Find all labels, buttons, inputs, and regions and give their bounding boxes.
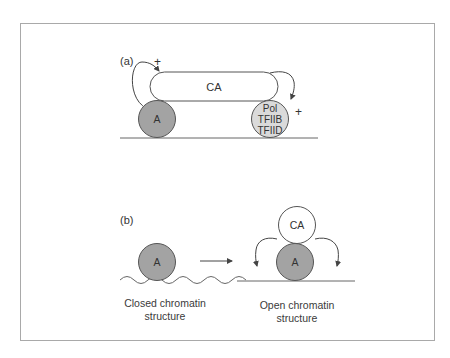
panel-a [120, 62, 318, 138]
caption-closed-line1: Closed chromatin [124, 297, 206, 310]
plus-sign-left: + [154, 56, 161, 68]
panel-b-label: (b) [120, 215, 133, 226]
activator-label-open: A [291, 257, 298, 268]
panel-a-label: (a) [120, 56, 133, 67]
complex-label-pol: Pol [263, 104, 277, 114]
caption-open-line2: structure [277, 312, 318, 325]
arrow-right-chromatin [315, 238, 338, 266]
activator-label-closed: A [153, 257, 160, 268]
ca-label-b: CA [290, 220, 305, 231]
panel-b [120, 207, 355, 284]
chromatin-wavy-line [120, 277, 246, 284]
ca-label-a: CA [206, 82, 221, 93]
complex-label-tfiid: TFIID [258, 126, 283, 136]
plus-sign-right: + [295, 106, 302, 118]
diagram-canvas [0, 0, 450, 358]
activator-label-a: A [153, 114, 160, 125]
caption-open-line1: Open chromatin [260, 299, 335, 312]
complex-label-tfiib: TFIIB [258, 115, 282, 125]
arrow-left-chromatin [256, 238, 277, 266]
caption-closed-line2: structure [145, 310, 186, 323]
